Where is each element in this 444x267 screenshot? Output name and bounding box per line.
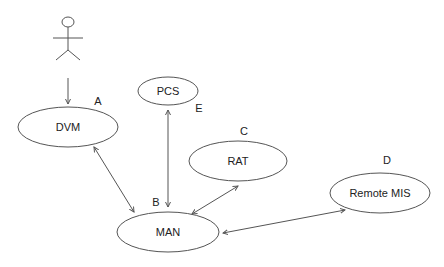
- node-dvm-label: DVM: [56, 121, 80, 133]
- node-remote-mis[interactable]: Remote MIS D: [330, 154, 430, 213]
- node-remote-mis-tag: D: [383, 154, 391, 166]
- node-man-tag: B: [152, 196, 159, 208]
- node-pcs-tag: E: [195, 102, 202, 114]
- actor-head: [62, 17, 74, 27]
- edge-man-rat: [192, 186, 238, 214]
- node-remote-mis-label: Remote MIS: [349, 187, 410, 199]
- edge-dvm-man: [94, 147, 134, 212]
- node-dvm-tag: A: [94, 95, 102, 107]
- diagram-canvas: DVM A PCS E RAT C MAN B Remote MIS D: [0, 0, 444, 267]
- node-rat-label: RAT: [227, 155, 248, 167]
- actor-left-leg: [56, 50, 68, 60]
- node-rat[interactable]: RAT C: [189, 125, 287, 181]
- node-man-label: MAN: [156, 226, 181, 238]
- node-rat-tag: C: [240, 125, 248, 137]
- actor-icon: [53, 17, 83, 60]
- node-pcs[interactable]: PCS E: [138, 77, 203, 114]
- edge-man-remote-mis: [223, 210, 345, 233]
- node-pcs-label: PCS: [157, 85, 180, 97]
- actor-right-leg: [68, 50, 80, 60]
